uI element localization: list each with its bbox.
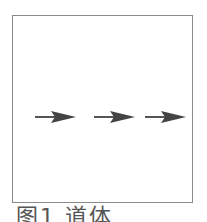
figure-caption: 图1 道体 [16, 206, 113, 222]
right-arrow-icon [145, 109, 187, 125]
right-arrow-icon [35, 109, 77, 125]
right-arrow-icon [94, 109, 136, 125]
